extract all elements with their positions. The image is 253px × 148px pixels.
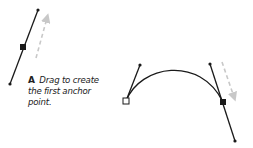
end-anchor-filled: [220, 99, 226, 105]
end-handle-endpoint-bottom: [233, 139, 236, 142]
drag-direction-arrow: [222, 62, 234, 97]
drag-direction-arrow: [36, 18, 47, 58]
pen-tool-diagram: [0, 0, 253, 148]
start-anchor-hollow: [123, 98, 129, 104]
caption: A Drag to create the first anchor point.: [28, 75, 108, 108]
start-handle-endpoint: [138, 63, 141, 66]
start-handle-line: [126, 65, 140, 101]
caption-text: Drag to create the first anchor point.: [28, 75, 99, 107]
handle-endpoint-bottom: [8, 82, 11, 85]
bezier-curve: [126, 70, 223, 102]
handle-endpoint-top: [36, 8, 39, 11]
caption-letter: A: [28, 75, 35, 85]
figure-b: [123, 62, 237, 143]
anchor-point-filled: [20, 44, 26, 50]
end-handle-endpoint-top: [208, 62, 211, 65]
